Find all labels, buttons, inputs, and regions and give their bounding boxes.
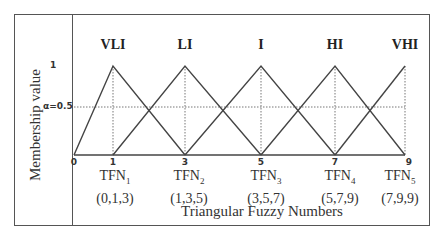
x-tick-7: 7: [332, 157, 338, 167]
term-label-i: I: [258, 37, 263, 53]
series-vli: [74, 66, 185, 155]
x-tick-0: 0: [71, 157, 77, 167]
x-tick-1: 1: [110, 157, 116, 167]
tfn-label-5: TFN5(7,9,9): [381, 167, 418, 208]
tfn-label-3: TFN3(3,5,7): [247, 167, 284, 208]
tfn-label-4: TFN4(5,7,9): [321, 167, 358, 208]
x-axis-label: Triangular Fuzzy Numbers: [181, 203, 343, 220]
series-li: [113, 66, 261, 155]
term-label-hi: HI: [327, 37, 343, 53]
x-tick-5: 5: [258, 157, 264, 167]
x-tick-9: 9: [406, 157, 412, 167]
tfn-label-1: TFN1(0,1,3): [96, 167, 133, 208]
term-label-li: LI: [178, 37, 193, 53]
series-i: [185, 66, 335, 155]
term-label-vli: VLI: [101, 37, 126, 53]
series-hi: [261, 66, 405, 155]
tfn-label-2: TFN2(1,3,5): [170, 167, 207, 208]
x-tick-3: 3: [182, 157, 188, 167]
term-label-vhi: VHI: [392, 37, 418, 53]
